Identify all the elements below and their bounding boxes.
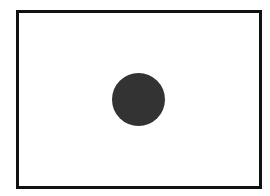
center-dot-icon: [112, 73, 165, 126]
